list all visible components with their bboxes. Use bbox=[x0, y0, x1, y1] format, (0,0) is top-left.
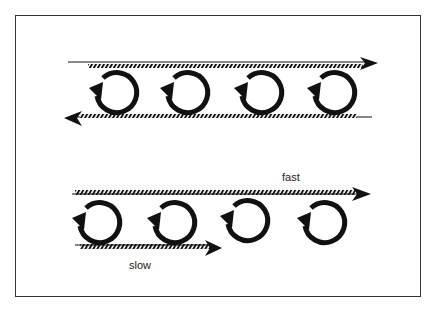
vortex-icon bbox=[220, 201, 268, 241]
vortex-icon bbox=[297, 203, 345, 243]
vortex-icon bbox=[89, 73, 137, 113]
slow-label: slow bbox=[129, 259, 151, 271]
vortex-icon bbox=[234, 73, 282, 113]
vortex-icon bbox=[160, 73, 208, 113]
top-panel bbox=[64, 57, 378, 126]
arrow-left-icon bbox=[64, 111, 82, 126]
bottom-panel bbox=[72, 187, 371, 256]
vortex-icon bbox=[147, 203, 195, 243]
shear-flow-diagram bbox=[0, 0, 437, 313]
arrow-right-icon bbox=[360, 57, 378, 70]
fast-label: fast bbox=[282, 171, 300, 183]
vortex-icon bbox=[72, 203, 120, 243]
vortex-icon bbox=[307, 73, 355, 113]
